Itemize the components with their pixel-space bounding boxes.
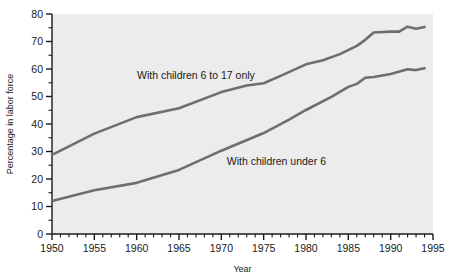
x-tick-label: 1985	[337, 242, 361, 254]
x-tick-label: 1995	[421, 242, 445, 254]
y-tick-label: 80	[31, 8, 43, 20]
x-tick-label: 1950	[40, 242, 64, 254]
labor-force-line-chart: 01020304050607080 1950195519601965197019…	[0, 0, 457, 277]
series-label-2: With children under 6	[227, 155, 326, 167]
y-tick-label: 10	[31, 200, 43, 212]
y-tick-label: 30	[31, 145, 43, 157]
x-tick-label: 1965	[167, 242, 191, 254]
chart-canvas: 01020304050607080 1950195519601965197019…	[0, 0, 457, 277]
x-tick-label: 1980	[294, 242, 318, 254]
y-tick-label: 0	[37, 228, 43, 240]
y-tick-label: 70	[31, 35, 43, 47]
y-tick-label: 20	[31, 173, 43, 185]
x-tick-label: 1990	[379, 242, 403, 254]
y-tick-label: 60	[31, 63, 43, 75]
x-axis-title: Year	[233, 264, 251, 274]
y-axis-tick-labels: 01020304050607080	[31, 8, 43, 240]
plot-area-background	[52, 14, 433, 234]
x-tick-label: 1975	[252, 242, 276, 254]
y-tick-label: 40	[31, 118, 43, 130]
y-axis-title: Percentage in labor force	[5, 74, 15, 175]
x-tick-label: 1955	[83, 242, 107, 254]
y-tick-label: 50	[31, 90, 43, 102]
x-tick-label: 1960	[125, 242, 149, 254]
series-label-1: With children 6 to 17 only	[137, 69, 256, 81]
x-tick-label: 1970	[210, 242, 234, 254]
